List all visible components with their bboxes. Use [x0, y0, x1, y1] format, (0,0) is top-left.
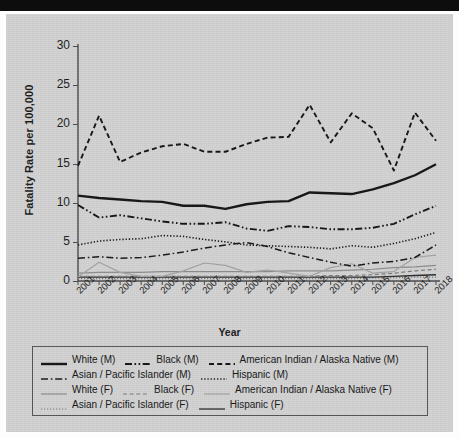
- legend-entry: White (F): [41, 384, 113, 395]
- y-tick-label: 30: [46, 38, 70, 52]
- legend-row: Asian / Pacific Islander (M)Hispanic (M): [41, 367, 421, 382]
- y-tick-label: 5: [46, 234, 70, 248]
- legend-line-swatch: [199, 400, 225, 410]
- legend-label: Hispanic (M): [232, 369, 288, 380]
- y-tick-mark: [73, 242, 78, 243]
- legend-line-swatch: [123, 385, 149, 395]
- y-tick-mark: [73, 164, 78, 165]
- series-line: [78, 232, 436, 248]
- y-tick-label: 20: [46, 116, 70, 130]
- legend-row: White (M)Black (M)American Indian / Alas…: [41, 352, 421, 367]
- y-tick-label: 15: [46, 156, 70, 170]
- y-tick-mark: [73, 203, 78, 204]
- legend-label: Black (M): [156, 354, 198, 365]
- screenshot-page: Fatality Rate per 100,000 051015202530 2…: [0, 0, 459, 438]
- y-tick-label: 25: [46, 77, 70, 91]
- legend-entry: Black (F): [123, 384, 194, 395]
- legend-entry: White (M): [41, 354, 115, 365]
- y-tick-mark: [73, 85, 78, 86]
- legend-row: White (F)Black (F)American Indian / Alas…: [41, 382, 421, 397]
- data-series-group: [78, 105, 436, 279]
- legend-label: Black (F): [154, 384, 194, 395]
- legend-line-swatch: [209, 355, 235, 365]
- y-tick-mark: [73, 281, 78, 282]
- legend-label: Asian / Pacific Islander (F): [72, 399, 189, 410]
- series-line: [78, 164, 436, 209]
- legend-line-swatch: [41, 355, 67, 365]
- legend-line-swatch: [204, 385, 230, 395]
- y-tick-label: 10: [46, 195, 70, 209]
- series-line: [78, 105, 436, 171]
- legend-label: Hispanic (F): [230, 399, 284, 410]
- y-tick-mark: [73, 124, 78, 125]
- y-tick-label: 0: [46, 273, 70, 287]
- legend-entry: American Indian / Alaska Native (M): [209, 354, 399, 365]
- legend-label: Asian / Pacific Islander (M): [72, 369, 191, 380]
- legend-entry: Hispanic (M): [201, 369, 288, 380]
- legend-entry: Black (M): [125, 354, 198, 365]
- scan-black-bar: [0, 0, 459, 11]
- legend-label: American Indian / Alaska Native (M): [240, 354, 399, 365]
- legend-line-swatch: [201, 370, 227, 380]
- legend-label: White (M): [72, 354, 115, 365]
- legend-line-swatch: [41, 385, 67, 395]
- legend-row: Asian / Pacific Islander (F)Hispanic (F): [41, 397, 421, 412]
- chart-legend: White (M)Black (M)American Indian / Alas…: [32, 346, 428, 416]
- x-axis-title: Year: [6, 326, 453, 338]
- legend-entry: Asian / Pacific Islander (F): [41, 399, 189, 410]
- legend-line-swatch: [41, 370, 67, 380]
- legend-line-swatch: [41, 400, 67, 410]
- legend-line-swatch: [125, 355, 151, 365]
- legend-entry: American Indian / Alaska Native (F): [204, 384, 392, 395]
- chart-figure: Fatality Rate per 100,000 051015202530 2…: [6, 14, 453, 432]
- series-line: [78, 205, 436, 231]
- legend-label: White (F): [72, 384, 113, 395]
- y-tick-mark: [73, 46, 78, 47]
- plot-area: Fatality Rate per 100,000 051015202530 2…: [6, 14, 453, 314]
- axis-lines: [78, 44, 440, 281]
- legend-label: American Indian / Alaska Native (F): [235, 384, 392, 395]
- legend-entry: Hispanic (F): [199, 399, 284, 410]
- legend-entry: Asian / Pacific Islander (M): [41, 369, 191, 380]
